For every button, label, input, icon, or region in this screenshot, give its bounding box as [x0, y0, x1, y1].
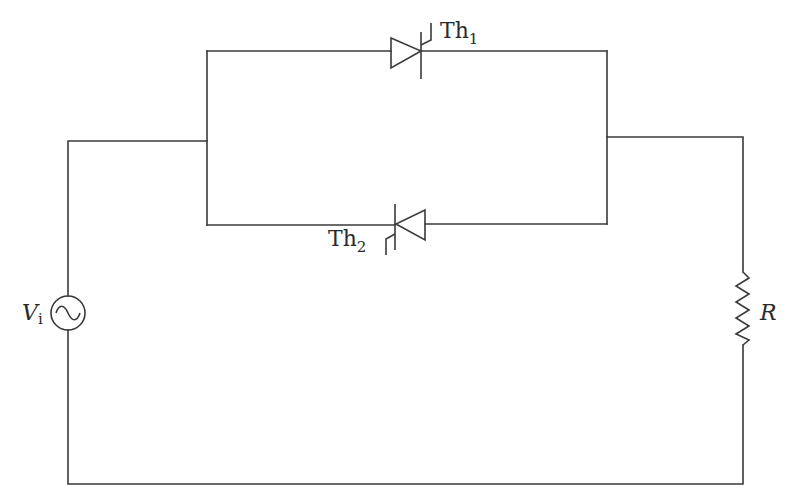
th1-diode-triangle	[391, 38, 421, 68]
circuit-diagram: Th1 Th2 Vi R	[0, 0, 788, 502]
wire-right-outer	[607, 137, 743, 272]
resistor-r: R	[736, 272, 777, 345]
resistor-zigzag	[736, 272, 749, 345]
thyristor-th2: Th2	[328, 204, 425, 256]
th1-gate-lead	[421, 23, 431, 45]
thyristor-th1: Th1	[391, 18, 478, 79]
th2-gate-lead	[386, 234, 395, 255]
source-label: Vi	[22, 300, 43, 328]
th2-diode-triangle	[396, 210, 425, 240]
antiparallel-block-wires	[207, 51, 607, 225]
ac-voltage-source: Vi	[22, 296, 85, 330]
th1-label: Th1	[440, 18, 478, 48]
th2-label: Th2	[328, 226, 366, 256]
sine-wave-icon	[56, 306, 80, 320]
resistor-label: R	[759, 300, 777, 325]
wire-left-outer	[68, 141, 743, 484]
